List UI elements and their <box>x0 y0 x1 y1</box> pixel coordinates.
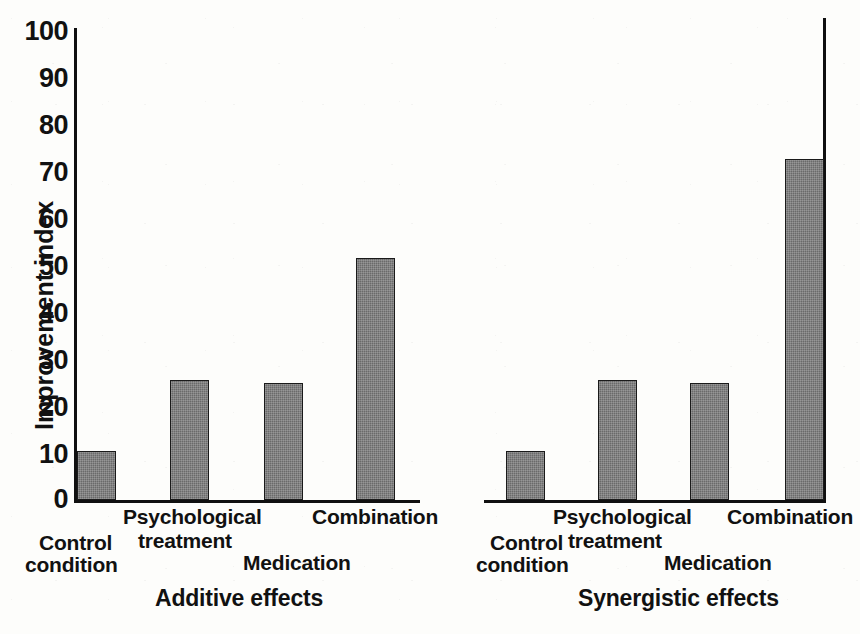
cat-label-medication-right: Medication <box>664 552 772 574</box>
cat-label-combination-right-text: Combination <box>727 505 853 528</box>
bar-psychological-treatment <box>170 380 209 500</box>
ytick-100: 100 <box>8 18 68 45</box>
bar-combination <box>356 258 395 500</box>
cat-label-combination-text: Combination <box>312 505 438 528</box>
cat-label-control-right: Control <box>490 532 563 554</box>
cat-label-psychological-right-2: treatment <box>568 530 662 552</box>
cat-label-medication-text: Medication <box>243 551 351 574</box>
cat-label-medication: Medication <box>243 552 351 574</box>
cat-label-psychological-line2: treatment <box>138 529 232 552</box>
bar-control-condition-right <box>506 451 545 500</box>
ytick-90: 90 <box>8 65 68 92</box>
cat-label-control-right-line2: condition <box>476 553 569 576</box>
ytick-10: 10 <box>8 441 68 468</box>
cat-label-psychological-right-line2: treatment <box>568 529 662 552</box>
cat-label-psychological-right-line1: Psychological <box>553 505 692 528</box>
cat-label-control-line2: condition <box>25 553 118 576</box>
chart-figure: 100 90 80 70 60 50 40 30 20 10 0 Improve… <box>0 0 860 634</box>
cat-label-psychological-right: Psychological <box>553 506 692 528</box>
cat-label-control-line1: Control <box>39 531 112 554</box>
y-axis-title: Improvement index <box>30 201 59 430</box>
cat-label-control-right-2: condition <box>476 554 569 576</box>
bar-control-condition <box>77 451 116 500</box>
bar-combination-right <box>785 159 824 500</box>
bar-medication-right <box>690 383 729 501</box>
cat-label-combination: Combination <box>312 506 438 528</box>
bar-psychological-treatment-right <box>598 380 637 500</box>
scan-texture-overlay <box>0 0 860 634</box>
cat-label-control-2: condition <box>25 554 118 576</box>
cat-label-psychological-line1: Psychological <box>123 505 262 528</box>
x-axis-baseline-right <box>484 500 826 503</box>
y-axis-spine <box>74 28 77 503</box>
x-axis-baseline <box>74 500 420 503</box>
cat-label-medication-right-text: Medication <box>664 551 772 574</box>
cat-label-psychological-2: treatment <box>138 530 232 552</box>
ytick-0: 0 <box>8 486 68 513</box>
panel-title-additive: Additive effects <box>155 586 323 610</box>
cat-label-control-right-line1: Control <box>490 531 563 554</box>
ytick-80: 80 <box>8 112 68 139</box>
cat-label-psychological: Psychological <box>123 506 262 528</box>
bar-medication <box>264 383 303 501</box>
panel-title-synergistic: Synergistic effects <box>578 586 779 610</box>
cat-label-control: Control <box>39 532 112 554</box>
ytick-70: 70 <box>8 159 68 186</box>
cat-label-combination-right: Combination <box>727 506 853 528</box>
